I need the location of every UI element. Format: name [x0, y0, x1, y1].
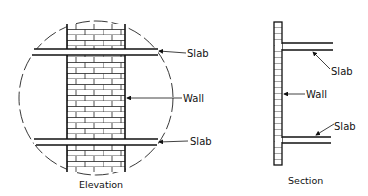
section-view: Slab Wall Slab Section	[274, 22, 356, 186]
section-leader-slab-bottom	[316, 124, 334, 135]
elevation-slab-bottom	[34, 139, 158, 145]
label-slab-bottom: Slab	[190, 136, 212, 147]
leader-slab-top	[159, 51, 186, 53]
section-wall	[274, 22, 282, 165]
caption-section: Section	[288, 175, 323, 186]
label-slab-top: Slab	[187, 48, 209, 59]
elevation-view: Slab Wall Slab Elevation	[19, 21, 212, 190]
caption-elevation: Elevation	[79, 179, 123, 190]
section-leader-slab-top	[313, 52, 330, 69]
section-label-wall: Wall	[306, 89, 327, 100]
elevation-slab-top	[32, 49, 158, 55]
elevation-wall	[67, 24, 125, 172]
section-label-slab-top: Slab	[331, 66, 353, 77]
section-label-slab-bottom: Slab	[334, 121, 356, 132]
label-wall: Wall	[183, 93, 204, 104]
leader-slab-bottom	[159, 141, 188, 142]
wall-slab-diagram: Slab Wall Slab Elevation Slab Wall Slab …	[0, 0, 368, 196]
